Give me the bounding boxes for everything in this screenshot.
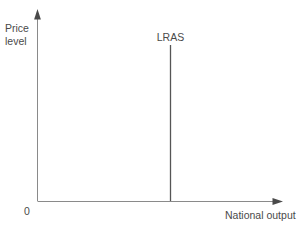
y-axis-label-line1: Price xyxy=(5,22,29,34)
lras-curve-label: LRAS xyxy=(157,31,184,43)
x-axis-arrowhead-icon xyxy=(273,198,284,205)
lras-diagram-figure: LRAS Price level National output 0 xyxy=(0,0,306,225)
chart-canvas: LRAS Price level National output 0 xyxy=(0,0,306,225)
y-axis-label-line2: level xyxy=(5,35,27,47)
origin-label: 0 xyxy=(24,205,30,217)
y-axis-arrowhead-icon xyxy=(34,9,41,20)
x-axis-label: National output xyxy=(225,209,296,221)
